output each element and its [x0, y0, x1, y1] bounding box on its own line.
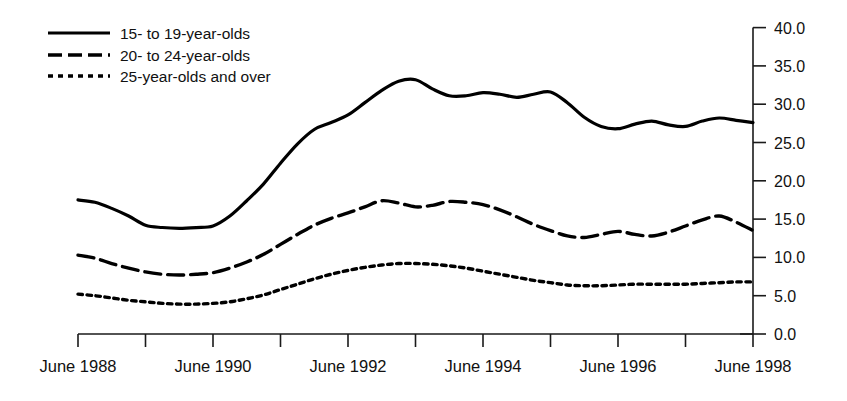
- x-axis-tick-label: June 1994: [444, 357, 521, 375]
- y-axis-tick-label: 10.0: [774, 249, 805, 266]
- y-axis-tick-label: 35.0: [774, 58, 805, 75]
- chart-container: 15- to 19-year-olds 20- to 24-year-olds …: [0, 0, 847, 401]
- x-axis-tick-label: June 1988: [39, 357, 116, 375]
- x-axis-tick-label: June 1990: [174, 357, 251, 375]
- legend-label-1: 20- to 24-year-olds: [120, 47, 250, 64]
- y-axis-tick-label: 5.0: [774, 288, 796, 305]
- x-axis-tick-label: June 1996: [579, 357, 656, 375]
- y-axis-tick-label: 25.0: [774, 135, 805, 152]
- x-axis-tick-label: June 1992: [309, 357, 386, 375]
- series-line-2: [78, 263, 753, 304]
- chart-legend: 15- to 19-year-olds 20- to 24-year-olds …: [48, 25, 271, 85]
- legend-label-2: 25-year-olds and over: [120, 68, 271, 85]
- y-axis-tick-label: 15.0: [774, 211, 805, 228]
- y-axis-tick-label: 20.0: [774, 173, 805, 190]
- legend-item-2: 25-year-olds and over: [48, 68, 271, 85]
- legend-label-0: 15- to 19-year-olds: [120, 25, 250, 42]
- x-axis: June 1988June 1990June 1992June 1994June…: [39, 334, 791, 375]
- y-axis-tick-label: 0.0: [774, 326, 796, 343]
- x-axis-tick-label: June 1998: [714, 357, 791, 375]
- series-layer: [78, 79, 753, 304]
- y-axis-tick-label: 40.0: [774, 20, 805, 37]
- legend-item-0: 15- to 19-year-olds: [48, 25, 250, 42]
- legend-item-1: 20- to 24-year-olds: [48, 47, 250, 64]
- y-axis: 40.035.030.025.020.015.010.05.00.0: [740, 20, 805, 343]
- line-chart: 15- to 19-year-olds 20- to 24-year-olds …: [0, 0, 847, 401]
- y-axis-tick-label: 30.0: [774, 96, 805, 113]
